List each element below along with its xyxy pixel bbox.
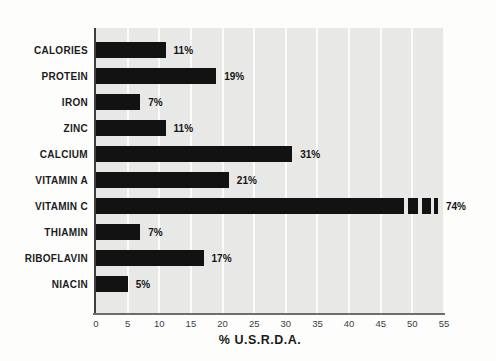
category-label: PROTEIN: [0, 71, 88, 82]
bar-track: 11%: [96, 115, 496, 141]
bar-track: 5%: [96, 271, 496, 297]
bar: [96, 42, 166, 58]
bar-row: CALORIES11%: [0, 37, 496, 63]
category-label: NIACIN: [0, 279, 88, 290]
bar-track: 7%: [96, 89, 496, 115]
value-label: 21%: [237, 175, 257, 186]
bar-track: 17%: [96, 245, 496, 271]
bar-truncated-segment: [434, 198, 438, 214]
bar-track: 19%: [96, 63, 496, 89]
x-axis-title: % U.S.R.D.A.: [76, 333, 444, 347]
category-label: ZINC: [0, 123, 88, 134]
bar-track: 11%: [96, 37, 496, 63]
value-label: 7%: [148, 227, 162, 238]
bar-row: NIACIN5%: [0, 271, 496, 297]
category-label: CALORIES: [0, 45, 88, 56]
bar-row: PROTEIN19%: [0, 63, 496, 89]
x-tick-label: 55: [439, 318, 450, 329]
x-tick-label: 20: [217, 318, 228, 329]
bar: [96, 224, 140, 240]
bar-row: IRON7%: [0, 89, 496, 115]
x-tick-label: 50: [407, 318, 418, 329]
bar-truncated-segment: [408, 198, 418, 214]
bar-track: 21%: [96, 167, 496, 193]
x-tick-label: 30: [281, 318, 292, 329]
bar-row: THIAMIN7%: [0, 219, 496, 245]
x-tick-label: 15: [186, 318, 197, 329]
value-label: 11%: [174, 123, 193, 134]
x-tick-label: 5: [125, 318, 130, 329]
x-tick-label: 10: [154, 318, 165, 329]
value-label: 74%: [446, 201, 466, 212]
x-axis-ticks: 0510152025303540455055: [0, 318, 496, 330]
x-tick-label: 0: [93, 318, 98, 329]
bar-truncated-segment: [96, 198, 404, 214]
x-tick-label: 45: [375, 318, 386, 329]
x-tick-label: 40: [344, 318, 355, 329]
category-label: RIBOFLAVIN: [0, 253, 88, 264]
value-label: 11%: [174, 45, 193, 56]
bar-row: CALCIUM31%: [0, 141, 496, 167]
value-label: 7%: [148, 97, 162, 108]
x-tick-label: 25: [249, 318, 260, 329]
bar-rows: CALORIES11%PROTEIN19%IRON7%ZINC11%CALCIU…: [0, 37, 496, 297]
x-axis-line: [93, 313, 445, 315]
bar-row: ZINC11%: [0, 115, 496, 141]
value-label: 5%: [136, 279, 150, 290]
value-label: 17%: [212, 253, 232, 264]
bar: [96, 68, 216, 84]
bar: [96, 276, 128, 292]
category-label: THIAMIN: [0, 227, 88, 238]
bar-truncated-segment: [422, 198, 431, 214]
bar-track: 7%: [96, 219, 496, 245]
bar-row: VITAMIN C74%: [0, 193, 496, 219]
category-label: VITAMIN C: [0, 201, 88, 212]
value-label: 31%: [300, 149, 320, 160]
bar: [96, 146, 292, 162]
bar: [96, 120, 166, 136]
bar-chart-figure: CALORIES11%PROTEIN19%IRON7%ZINC11%CALCIU…: [0, 0, 496, 361]
bar-track: 31%: [96, 141, 496, 167]
category-label: CALCIUM: [0, 149, 88, 160]
bar: [96, 94, 140, 110]
value-label: 19%: [224, 71, 244, 82]
category-label: VITAMIN A: [0, 175, 88, 186]
bar-row: VITAMIN A21%: [0, 167, 496, 193]
bar: [96, 172, 229, 188]
bar-track: 74%: [96, 193, 496, 219]
bar: [96, 250, 204, 266]
category-label: IRON: [0, 97, 88, 108]
bar-row: RIBOFLAVIN17%: [0, 245, 496, 271]
x-tick-label: 35: [312, 318, 323, 329]
